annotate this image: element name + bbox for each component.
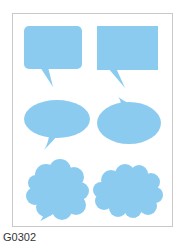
oval-bubble-top-tail-icon (97, 97, 161, 144)
rounded-rectangle-bubble-icon (24, 26, 82, 87)
oval-bubble-icon (24, 100, 90, 150)
product-code-label: G0302 (3, 231, 36, 243)
speech-bubbles-artwork (0, 0, 180, 247)
cloud-bubble-wide-icon (93, 164, 163, 218)
cloud-bubble-icon (26, 159, 89, 221)
rectangle-bubble-icon (97, 26, 158, 88)
